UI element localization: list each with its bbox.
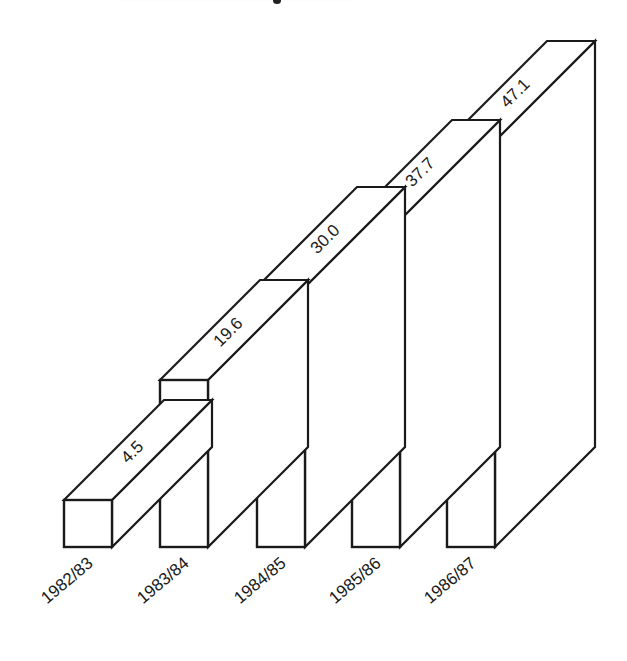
chart-3d-bar: 47.137.730.019.64.5 1982/831983/841984/8… <box>0 0 627 661</box>
category-label-1986-87: 1986/87 <box>420 554 479 608</box>
category-label-1984-85: 1984/85 <box>230 554 289 608</box>
chart-canvas: 47.137.730.019.64.5 1982/831983/841984/8… <box>0 0 627 661</box>
bar-front-face <box>64 500 112 547</box>
bars-layer: 47.137.730.019.64.5 <box>64 41 595 547</box>
category-label-1985-86: 1985/86 <box>325 554 384 608</box>
category-label-1982-83: 1982/83 <box>37 554 96 608</box>
category-label-1983-84: 1983/84 <box>133 554 192 608</box>
category-labels: 1982/831983/841984/851985/861986/87 <box>37 554 479 608</box>
